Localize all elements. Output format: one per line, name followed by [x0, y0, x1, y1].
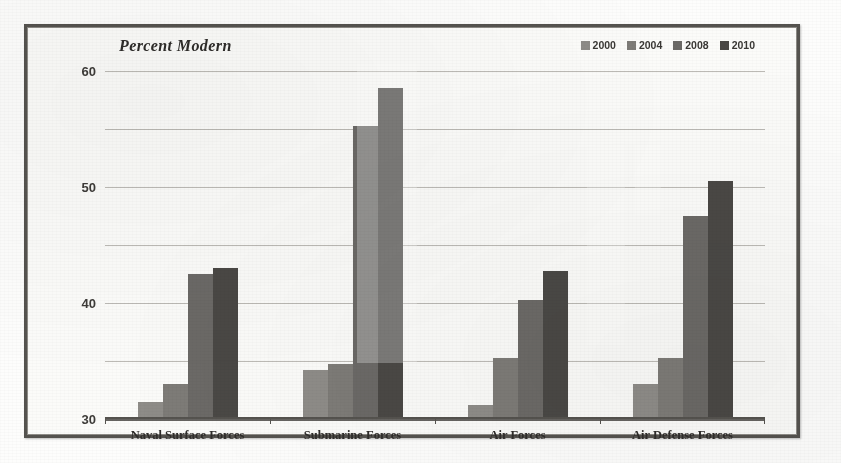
x-axis-tick	[270, 418, 271, 424]
bar[interactable]	[378, 88, 403, 419]
legend-label: 2004	[639, 39, 662, 51]
legend-item[interactable]: 2000	[581, 39, 616, 51]
x-axis-tick	[600, 418, 601, 424]
x-axis-line	[105, 417, 765, 419]
bar[interactable]	[518, 300, 543, 419]
bar-group-bars	[600, 71, 765, 419]
legend-label: 2000	[593, 39, 616, 51]
legend-item[interactable]: 2008	[673, 39, 708, 51]
legend-swatch-icon	[673, 41, 682, 50]
y-axis-tick-label: 50	[82, 180, 96, 195]
legend-swatch-icon	[581, 41, 590, 50]
bar-group-bars	[105, 71, 270, 419]
bar-group: Submarine Forces	[270, 71, 435, 419]
chart-legend: 2000200420082010	[581, 39, 755, 51]
bar[interactable]	[213, 268, 238, 419]
chart-frame: Percent Modern 2000200420082010 60504030…	[24, 24, 800, 438]
x-axis-tick	[435, 418, 436, 424]
bar[interactable]	[163, 384, 188, 419]
x-axis-category-label: Naval Surface Forces	[131, 428, 245, 443]
bar-group: Air Defense Forces	[600, 71, 765, 419]
legend-label: 2008	[685, 39, 708, 51]
bar-group-bars	[435, 71, 600, 419]
y-axis-tick-label: 40	[82, 296, 96, 311]
x-axis-tick	[105, 418, 106, 424]
bar[interactable]	[353, 126, 378, 419]
bar[interactable]	[188, 274, 213, 419]
plot-area: 6050403020100 Naval Surface ForcesSubmar…	[105, 71, 765, 419]
chart-title: Percent Modern	[119, 37, 232, 55]
y-axis-tick-label: 30	[82, 412, 96, 427]
bar[interactable]	[328, 364, 353, 419]
bar-group-bars	[270, 71, 435, 419]
bar[interactable]	[633, 384, 658, 419]
legend-item[interactable]: 2004	[627, 39, 662, 51]
bar-group: Naval Surface Forces	[105, 71, 270, 419]
bar[interactable]	[683, 216, 708, 419]
legend-swatch-icon	[627, 41, 636, 50]
bar[interactable]	[303, 370, 328, 419]
bar[interactable]	[658, 358, 683, 419]
bar[interactable]	[708, 181, 733, 419]
bar-group: Air Forces	[435, 71, 600, 419]
y-axis-tick-label: 60	[82, 64, 96, 79]
x-axis-category-label: Submarine Forces	[304, 428, 401, 443]
legend-swatch-icon	[720, 41, 729, 50]
x-axis-category-label: Air Forces	[489, 428, 545, 443]
bar[interactable]	[543, 271, 568, 419]
x-axis-tick	[764, 418, 765, 424]
legend-item[interactable]: 2010	[720, 39, 755, 51]
bar[interactable]	[493, 358, 518, 419]
legend-label: 2010	[732, 39, 755, 51]
x-axis-category-label: Air Defense Forces	[632, 428, 733, 443]
scanned-page: Percent Modern 2000200420082010 60504030…	[0, 0, 841, 463]
